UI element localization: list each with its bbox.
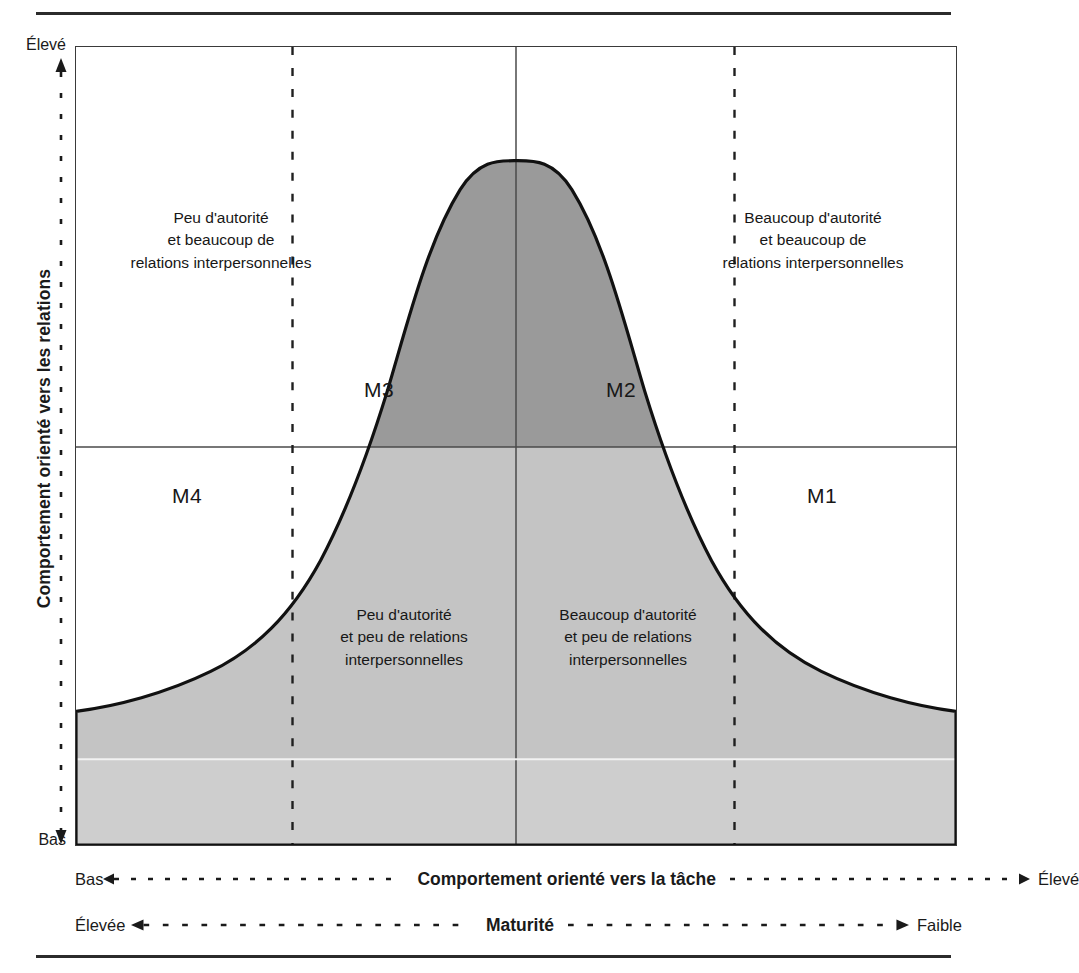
x-axis-row-1-title: Comportement orienté vers la tâche: [413, 869, 720, 890]
arrow-left-dashed-row-1: [103, 872, 403, 886]
arrow-right-dashed-row-1: [730, 872, 1030, 886]
y-axis: Élevé Bas Comportement orienté vers les …: [0, 36, 72, 856]
y-axis-dashed-arrow: [53, 58, 69, 844]
note-top-right-line-1: Beaucoup d'autorité: [688, 207, 938, 229]
x-axis-row-1-left-label: Bas: [75, 870, 103, 889]
maturity-label-m2: M2: [606, 378, 636, 402]
x-axis-row-task-behaviour: Bas Comportement orienté vers la tâche É…: [75, 862, 987, 896]
arrow-right-dashed-row-2: [568, 918, 909, 932]
y-axis-title: Comportement orienté vers les relations: [34, 159, 55, 719]
note-bottom-center-left: Peu d'autorité et peu de relations inter…: [304, 604, 504, 671]
note-bottom-center-right: Beaucoup d'autorité et peu de relations …: [528, 604, 728, 671]
y-axis-top-label: Élevé: [26, 36, 66, 54]
x-axis-row-2-title: Maturité: [482, 915, 558, 936]
top-horizontal-rule: [36, 12, 951, 15]
x-axis-row-maturity: Élevée Maturité Faible: [75, 908, 987, 942]
x-axis-row-2-scale: Maturité: [131, 915, 909, 936]
maturity-label-m1: M1: [807, 484, 837, 508]
bell-curve-figure: [76, 47, 956, 845]
chart-plot-area: Peu d'autorité et beaucoup de relations …: [75, 46, 957, 846]
note-bottom-center-right-line-3: interpersonnelles: [528, 649, 728, 671]
maturity-label-m3: M3: [364, 378, 394, 402]
note-bottom-center-right-line-1: Beaucoup d'autorité: [528, 604, 728, 626]
note-top-left-line-3: relations interpersonnelles: [96, 252, 346, 274]
maturity-label-m4: M4: [172, 484, 202, 508]
note-top-right: Beaucoup d'autorité et beaucoup de relat…: [688, 207, 938, 274]
x-axis-row-1-right-label: Élevé: [1030, 870, 1079, 889]
x-axis-row-1-scale: Comportement orienté vers la tâche: [103, 869, 1030, 890]
x-axis-row-2-left-label: Élevée: [75, 916, 131, 935]
arrow-left-dashed-row-2: [131, 918, 472, 932]
note-bottom-center-left-line-1: Peu d'autorité: [304, 604, 504, 626]
note-bottom-center-right-line-2: et peu de relations: [528, 626, 728, 648]
note-top-left-line-2: et beaucoup de: [96, 229, 346, 251]
note-top-right-line-2: et beaucoup de: [688, 229, 938, 251]
note-top-left: Peu d'autorité et beaucoup de relations …: [96, 207, 346, 274]
bottom-horizontal-rule: [36, 955, 951, 958]
note-top-left-line-1: Peu d'autorité: [96, 207, 346, 229]
note-bottom-center-left-line-2: et peu de relations: [304, 626, 504, 648]
note-top-right-line-3: relations interpersonnelles: [688, 252, 938, 274]
x-axis-row-2-right-label: Faible: [909, 916, 987, 935]
note-bottom-center-left-line-3: interpersonnelles: [304, 649, 504, 671]
